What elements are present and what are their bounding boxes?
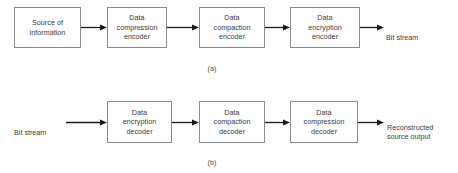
block-label: Data compression encoder (115, 13, 160, 42)
panel-label-b: (b) (192, 158, 232, 167)
block-label: Source of information (28, 18, 68, 37)
label-bit-stream-input: Bit stream (14, 118, 46, 137)
block-label: Data compaction decoder (212, 108, 253, 137)
arrow-encryption-encoder-to-bit-stream (360, 23, 384, 32)
arrow-compaction-to-encryption-encoder (265, 23, 290, 32)
panel-label-text: (a) (208, 64, 217, 73)
arrow-source-to-compression-encoder (81, 23, 107, 32)
block-source-of-information: Source of information (14, 7, 81, 48)
block-diagram: Source of information Data compression e… (0, 0, 458, 173)
block-label: Data compaction encoder (212, 13, 253, 42)
block-data-compression-decoder: Data compression decoder (290, 101, 358, 143)
arrow-compression-decoder-to-output (358, 118, 384, 127)
block-data-compression-encoder: Data compression encoder (107, 7, 167, 48)
label-text: Reconstructed source output (387, 123, 433, 142)
block-data-compaction-encoder: Data compaction encoder (199, 7, 265, 48)
panel-label-text: (b) (208, 158, 217, 167)
block-label: Data encryption decoder (121, 108, 158, 137)
arrow-compaction-to-compression-decoder (265, 118, 290, 127)
label-bit-stream-output: Bit stream (386, 23, 418, 42)
label-reconstructed-source-output: Reconstructed source output (387, 113, 433, 142)
arrow-encryption-to-compaction-decoder (172, 118, 199, 127)
block-data-encryption-encoder: Data encryption encoder (290, 7, 360, 48)
label-text: Bit stream (14, 128, 46, 137)
arrow-compression-to-compaction-encoder (167, 23, 199, 32)
panel-label-a: (a) (192, 64, 232, 73)
block-label: Data encryption encoder (306, 13, 343, 42)
label-text: Bit stream (386, 33, 418, 42)
block-data-compaction-decoder: Data compaction decoder (199, 101, 265, 143)
block-data-encryption-decoder: Data encryption decoder (107, 101, 172, 143)
arrow-bit-stream-to-encryption-decoder (66, 118, 107, 127)
block-label: Data compression decoder (302, 108, 347, 137)
